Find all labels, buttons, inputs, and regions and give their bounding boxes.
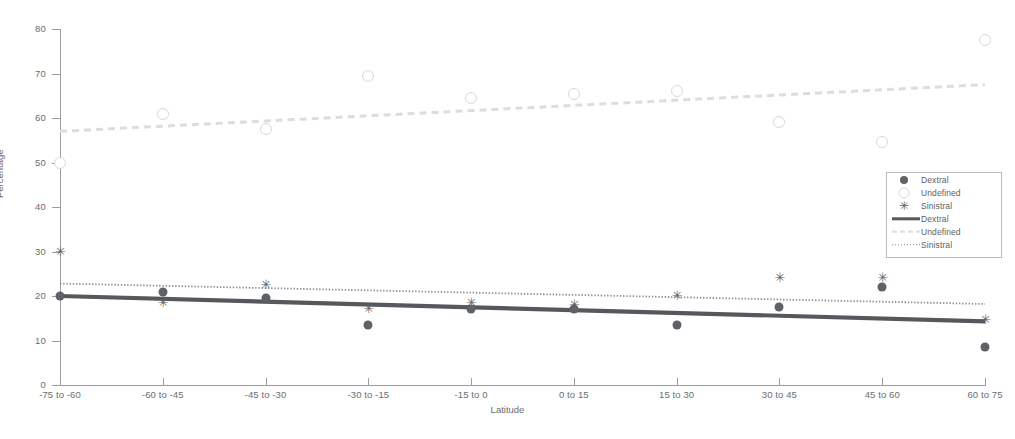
legend-label: Dextral [921, 175, 949, 185]
dashed-line-icon [892, 230, 920, 233]
legend-label: Undefined [921, 188, 961, 198]
legend-line-undefined [891, 225, 921, 238]
legend-item-dextral-marker[interactable]: Dextral [887, 173, 1001, 186]
legend-item-undefined-line[interactable]: Undefined [887, 225, 1001, 238]
legend-label: Dextral [921, 214, 949, 224]
solid-line-icon [892, 217, 920, 220]
legend-item-dextral-line[interactable]: Dextral [887, 212, 1001, 225]
trendline-undefined [60, 85, 985, 132]
legend-item-sinistral-marker[interactable]: ✳Sinistral [887, 199, 1001, 212]
legend-line-dextral [891, 212, 921, 225]
legend-marker-sinistral: ✳ [891, 199, 921, 212]
trendline-layer [0, 0, 1015, 439]
chart-legend: DextralUndefined✳SinistralDextralUndefin… [886, 172, 1002, 258]
trendline-dextral [60, 296, 985, 321]
legend-item-sinistral-line[interactable]: Sinistral [887, 238, 1001, 251]
legend-label: Sinistral [921, 201, 952, 211]
figure: Percentage Latitude 01020304050607080 -7… [0, 0, 1015, 439]
asterisk-icon: ✳ [899, 201, 909, 210]
legend-label: Undefined [921, 227, 961, 237]
legend-label: Sinistral [921, 240, 952, 250]
dotted-line-icon [892, 244, 920, 246]
legend-line-sinistral [891, 238, 921, 251]
filled-circle-icon [900, 176, 908, 184]
open-circle-icon [899, 187, 910, 198]
legend-marker-dextral [891, 173, 921, 186]
